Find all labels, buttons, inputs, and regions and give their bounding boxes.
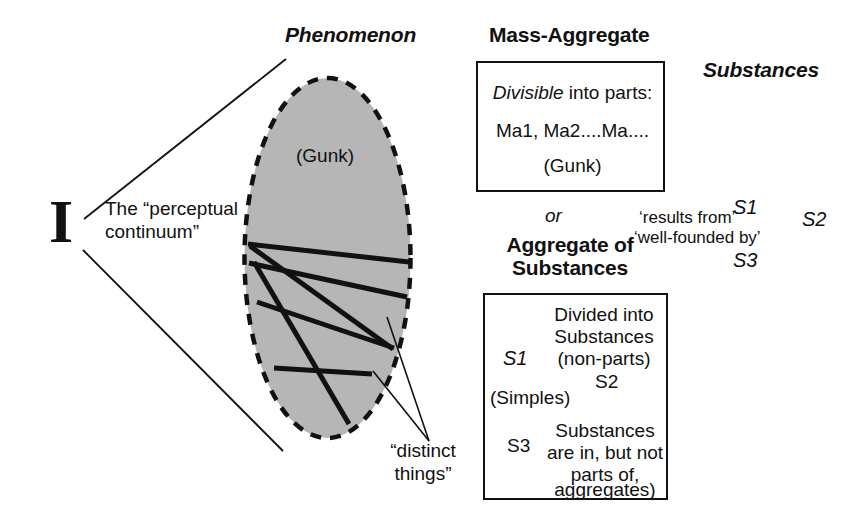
bracket-symbol: I <box>49 190 73 252</box>
relation-well-founded-by: ‘well-founded by’ <box>634 228 761 247</box>
or-connector: or <box>545 205 562 226</box>
aggregate-simples-label: (Simples) <box>490 387 570 408</box>
relation-results-from: ‘results from’ <box>639 208 735 227</box>
pointer-line-1 <box>387 317 429 441</box>
distinct-things-label-line1: “distinct <box>371 440 475 461</box>
aggregate-label-s3: S3 <box>507 435 530 456</box>
diagram-canvas: Phenomenon I The “perceptual continuum” … <box>0 0 867 530</box>
aggregate-divided-into: Divided into <box>540 304 668 325</box>
aggregate-of-substances-box: Divided into Substances (non-parts) S1 S… <box>483 293 668 500</box>
gunk-ellipse-label: (Gunk) <box>296 145 354 166</box>
aggregate-note-line4: aggregates) <box>543 479 667 500</box>
pointer-line-2 <box>373 371 429 441</box>
mass-aggregate-parts-list: Ma1, Ma2....Ma.... <box>478 120 667 141</box>
mass-aggregate-gunk-label: (Gunk) <box>478 155 667 176</box>
substances-label-s3: S3 <box>733 249 757 271</box>
substances-label-s1: S1 <box>733 196 757 218</box>
substances-heading: Substances <box>703 58 819 82</box>
mass-aggregate-box: Divisible into parts: Ma1, Ma2....Ma....… <box>476 61 665 192</box>
distinct-things-label-line2: things” <box>371 463 475 484</box>
perceptual-continuum-label-line2: continuum” <box>105 221 199 242</box>
aggregate-note-line1: Substances <box>543 420 667 441</box>
mass-aggregate-heading: Mass-Aggregate <box>489 23 650 47</box>
divisible-emphasis: Divisible <box>493 82 564 103</box>
divisible-rest: into parts: <box>564 82 653 103</box>
substances-label-s2: S2 <box>802 208 826 230</box>
perceptual-continuum-label-line1: The “perceptual <box>105 198 238 219</box>
mass-aggregate-divisible-line: Divisible into parts: <box>478 82 667 103</box>
aggregate-of-substances-heading-line2: Substances <box>470 256 670 280</box>
aggregate-note-line2: are in, but not <box>543 442 667 463</box>
aggregate-label-s2: S2 <box>595 371 618 392</box>
page-title: Phenomenon <box>285 23 416 47</box>
aggregate-label-s1: S1 <box>503 347 527 369</box>
aggregate-substances-word: Substances <box>540 326 668 347</box>
aggregate-non-parts: (non-parts) <box>540 348 668 369</box>
